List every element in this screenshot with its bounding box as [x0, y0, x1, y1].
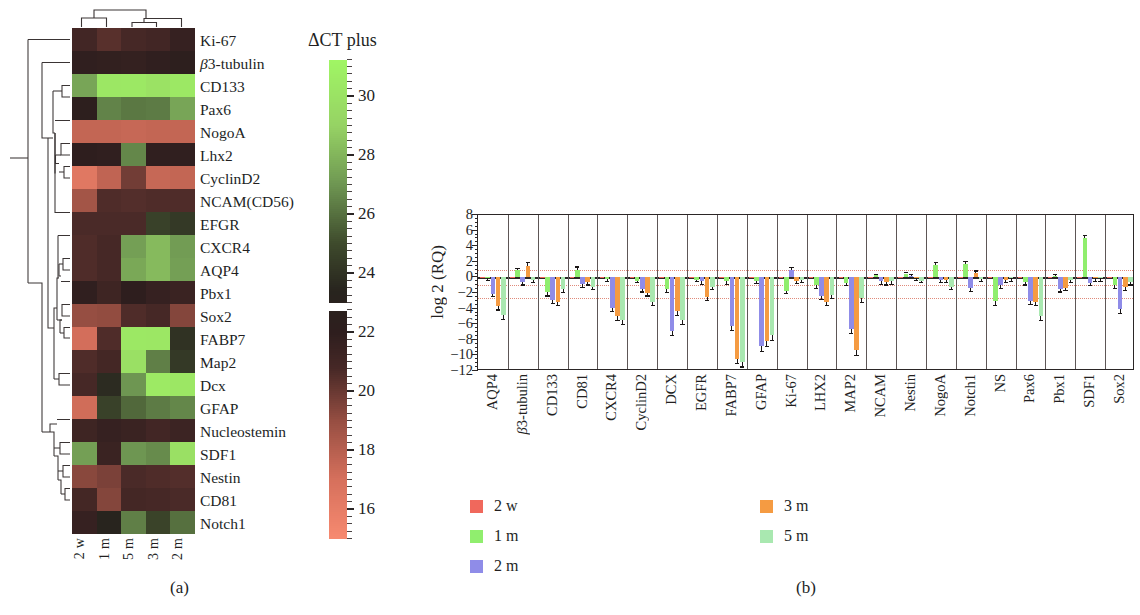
bar — [680, 277, 685, 320]
bar — [610, 277, 615, 307]
colorbar-tick — [347, 191, 352, 192]
heatmap-cell — [72, 258, 97, 281]
bar — [675, 277, 680, 311]
bar — [561, 277, 566, 289]
heatmap-cell — [72, 419, 97, 442]
bar — [779, 277, 784, 278]
bar — [963, 264, 968, 277]
heatmap-cell — [146, 166, 171, 189]
heatmap-cell — [72, 350, 97, 373]
bar — [1118, 277, 1123, 309]
heatmap-row-label: Ki-67 — [200, 33, 236, 49]
heatmap-cell — [97, 488, 122, 511]
heatmap-cell — [146, 212, 171, 235]
heatmap-cell — [97, 373, 122, 396]
heatmap-cell — [121, 189, 146, 212]
error-bar-cap — [735, 363, 739, 364]
heatmap-cell — [97, 166, 122, 189]
heatmap-cell — [72, 120, 97, 143]
colorbar-tick — [347, 199, 352, 200]
x-tick-label: CD133 — [544, 374, 561, 416]
heatmap-cell — [97, 419, 122, 442]
error-bar-cap — [795, 283, 799, 284]
colorbar-tick — [347, 258, 352, 259]
bar — [556, 277, 561, 301]
x-tick-label: NCAM — [872, 374, 889, 418]
heatmap-row-label: Lhx2 — [200, 148, 233, 164]
heatmap-cell — [72, 511, 97, 534]
heatmap-cell — [97, 304, 122, 327]
error-bar-cap — [1118, 313, 1122, 314]
heatmap-cell — [72, 212, 97, 235]
error-bar-cap — [934, 262, 938, 263]
heatmap-cell — [72, 396, 97, 419]
heatmap-cell — [170, 235, 195, 258]
colorbar-tick — [347, 486, 352, 487]
heatmap-cell — [146, 281, 171, 304]
colorbar-tick — [347, 309, 352, 310]
bar — [515, 270, 520, 277]
heatmap-cell — [72, 189, 97, 212]
error-bar-cap — [496, 309, 500, 310]
error-bar-cap — [491, 296, 495, 297]
bar — [898, 277, 903, 278]
error-bar-cap — [969, 291, 973, 292]
heatmap-cell — [72, 51, 97, 74]
y-axis-label: log 2 (RQ) — [428, 245, 448, 319]
bar — [819, 277, 824, 296]
heatmap-row-label: NCAM(CD56) — [200, 194, 294, 210]
error-bar-cap — [1123, 290, 1127, 291]
error-bar-cap — [710, 289, 714, 290]
heatmap-cell — [97, 511, 122, 534]
error-bar-cap — [1023, 284, 1027, 285]
colorbar-tick — [347, 501, 352, 502]
heatmap-cell — [170, 74, 195, 97]
x-tick-label: MAP2 — [842, 374, 859, 413]
error-bar-cap — [621, 324, 625, 325]
bar-group — [926, 215, 956, 369]
heatmap-cell — [146, 235, 171, 258]
heatmap-cell — [121, 120, 146, 143]
bar — [580, 277, 585, 284]
bar — [1028, 277, 1033, 300]
legend-item: 2 m — [470, 558, 518, 574]
heatmap-cell — [170, 511, 195, 534]
x-tick-label: NS — [992, 374, 1009, 393]
bar-chart-plot-area — [477, 214, 1134, 370]
error-bar-cap — [914, 280, 918, 281]
heatmap-cell — [72, 97, 97, 120]
heatmap-cell — [121, 396, 146, 419]
heatmap-cell — [97, 143, 122, 166]
colorbar-tick — [347, 457, 352, 458]
heatmap-cell — [72, 465, 97, 488]
heatmap-cell — [97, 189, 122, 212]
colorbar-tick — [347, 531, 352, 532]
bar-group — [807, 215, 837, 369]
heatmap-cell — [146, 373, 171, 396]
heatmap-cell — [146, 74, 171, 97]
heatmap-cell — [146, 97, 171, 120]
bar-group — [657, 215, 687, 369]
bar-group — [1045, 215, 1075, 369]
legend-label: 2 m — [494, 558, 518, 574]
error-bar-cap — [740, 366, 744, 367]
colorbar-tick — [347, 331, 354, 332]
error-bar-cap — [551, 303, 555, 304]
heatmap-cell — [72, 304, 97, 327]
bar — [958, 277, 963, 278]
error-bar-cap — [486, 280, 490, 281]
heatmap-cell — [146, 51, 171, 74]
heatmap-row-label: AQP4 — [200, 263, 239, 279]
bar — [491, 277, 496, 293]
heatmap-cell — [121, 97, 146, 120]
heatmap-row-label: SDF1 — [200, 447, 236, 463]
heatmap-cell — [170, 373, 195, 396]
legend-swatch — [470, 500, 483, 513]
heatmap-cell — [121, 143, 146, 166]
error-bar-cap — [814, 288, 818, 289]
bar — [600, 277, 605, 278]
heatmap-cell — [97, 51, 122, 74]
error-bar-cap — [999, 288, 1003, 289]
colorbar-tick-label: 28 — [358, 146, 375, 163]
colorbar-tick — [347, 472, 352, 473]
